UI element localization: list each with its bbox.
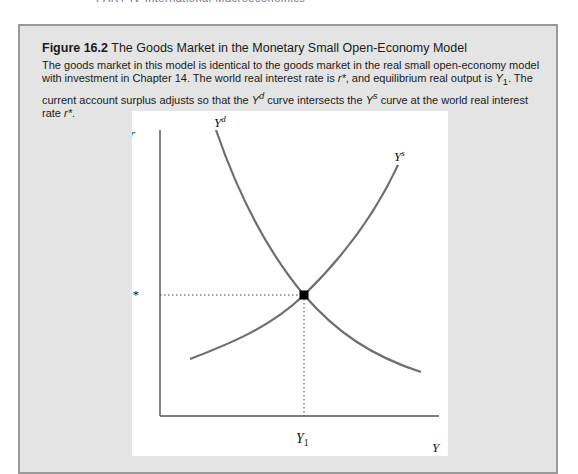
plot-panel: r r* Yd Ys Y1 Y: [132, 111, 448, 456]
goods-market-chart: r r* Yd Ys Y1 Y: [132, 111, 448, 456]
caption-symbol-y1: Y: [495, 72, 502, 84]
ys-curve: [190, 165, 398, 359]
caption-symbol-yd: Y: [252, 93, 259, 105]
ys-curve-label: Ys: [394, 148, 405, 164]
caption-text: .: [72, 107, 75, 119]
caption-text: , and equilibrium real output is: [346, 72, 496, 84]
caption-symbol-ys: Y: [366, 93, 373, 105]
yd-curve-label: Yd: [214, 114, 226, 130]
caption-symbol-rstar: r*: [64, 107, 72, 119]
equilibrium-point: [300, 291, 309, 300]
caption-text: curve intersects the: [264, 93, 366, 105]
figure-number: Figure 16.2: [42, 41, 108, 55]
figure-title-text: The Goods Market in the Monetary Small O…: [111, 41, 467, 55]
y-axis-label: r: [132, 126, 136, 141]
figure-box: Figure 16.2 The Goods Market in the Mone…: [18, 24, 558, 474]
y1-tick-label: Y1: [296, 431, 309, 448]
x-axis-label: Y: [432, 440, 441, 455]
rstar-tick-label: r*: [132, 287, 139, 302]
figure-title: Figure 16.2 The Goods Market in the Mone…: [42, 41, 467, 55]
running-header: PART IV International Macroeconomics: [96, 0, 305, 4]
caption-symbol-rstar: r*: [338, 72, 346, 84]
